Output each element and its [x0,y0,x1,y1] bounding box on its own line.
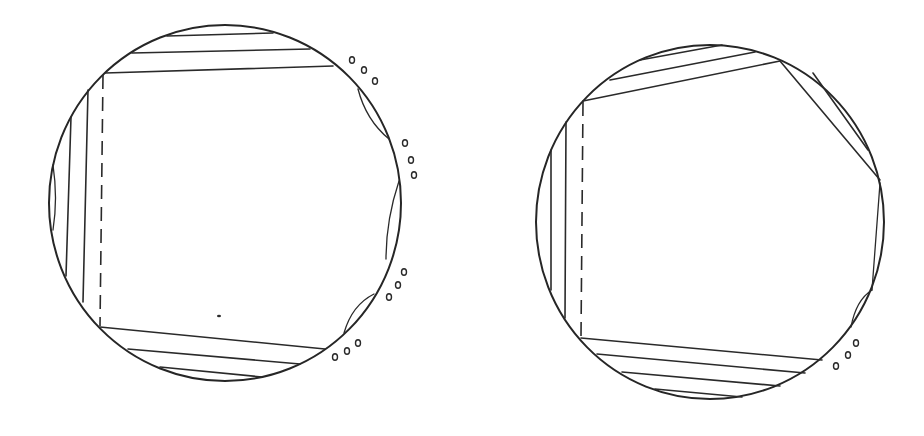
right-side-cut-2 [565,122,566,318]
left-top-chord-1 [167,33,273,36]
marker-dot [345,348,350,355]
right-panel [536,45,884,399]
right-top-chord-2 [610,52,755,80]
right-bottom-chord-3 [622,372,780,386]
left-lens-1 [358,89,389,139]
marker-dot [412,172,417,179]
left-speck [217,315,221,318]
marker-dot [356,340,361,347]
marker-dot [834,363,839,370]
left-panel [49,25,417,381]
right-diagonal-cut-2 [813,73,868,150]
right-diagonal-cuts [780,61,880,180]
marker-dot [350,57,355,64]
left-side-cuts [53,90,88,302]
right-dashed-boundary [581,102,583,337]
marker-dot [387,294,392,301]
marker-dot [333,354,338,361]
right-top-chords [583,45,780,101]
left-bottom-chord-3 [160,367,262,377]
marker-dot [854,340,859,347]
right-bottom-chord-2 [597,354,805,373]
marker-dot [846,352,851,359]
left-marker-group-2 [403,140,417,179]
left-lens-2 [386,181,399,259]
left-top-chords [105,33,333,73]
left-side-cut-1 [66,117,71,276]
right-bottom-chord-1 [581,338,822,360]
marker-dot [373,78,378,85]
left-right-lenses [344,89,399,333]
marker-dot [409,157,414,164]
left-top-chord-2 [132,49,310,53]
marker-dot [403,140,408,147]
right-side-cuts [551,122,566,318]
left-bottom-chords [100,327,325,377]
marker-dot [402,269,407,276]
right-right-lenses [851,183,880,327]
left-bottom-chord-2 [128,349,300,364]
marker-dot [362,67,367,74]
left-dashed-boundary [100,75,103,326]
marker-dot [396,282,401,289]
right-bottom-chords [581,338,822,397]
left-side-cut-2 [83,90,88,302]
left-lens-3 [344,294,374,333]
left-edge-lens [53,165,56,230]
right-diagonal-cut-1 [780,61,880,180]
left-bottom-chord-1 [100,327,325,349]
left-top-chord-3 [105,66,333,73]
diagram-svg [0,0,924,436]
diagram-canvas [0,0,924,436]
left-marker-group-4 [333,340,361,361]
left-marker-group-3 [387,269,407,301]
